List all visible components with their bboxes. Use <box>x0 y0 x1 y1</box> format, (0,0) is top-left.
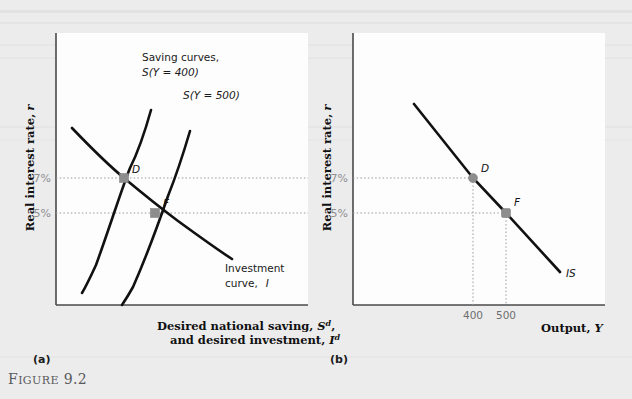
panel-a: D F 7% 5% Saving curves, S(Y = 400) S(Y … <box>23 33 341 366</box>
figure-caption-word-rest: IGURE <box>18 374 59 387</box>
panel-b-point-F-label: F <box>514 196 521 208</box>
panel-b-x-axis-title-symbol: Y <box>594 321 604 335</box>
saving-curve-500-label: S(Y = 500) <box>183 89 240 101</box>
panel-a-x-axis-title-line1: Desired national saving,Sd, <box>157 318 335 333</box>
panel-b-point-D-marker <box>469 174 478 183</box>
panel-b: D F IS 7% 5% 400 500 Real interest rate,… <box>320 33 605 366</box>
figure-caption-number: 9.2 <box>64 371 87 387</box>
investment-curve-label-word: curve, <box>225 277 258 289</box>
figure-caption-word: F <box>8 371 18 387</box>
panel-b-point-D-label: D <box>481 162 489 174</box>
panel-a-x-title-sup2: d <box>335 332 341 342</box>
panel-a-x-title-text1: Desired national saving, <box>157 319 313 333</box>
panel-a-x-axis-title-line2: and desired investment,Id <box>170 332 341 347</box>
investment-curve-symbol: I <box>266 277 269 289</box>
panel-a-point-F-marker <box>151 209 160 218</box>
panel-b-y-axis-title-symbol: r <box>320 104 334 111</box>
panel-b-letter: (b) <box>330 353 348 366</box>
panel-b-xtick-500: 500 <box>496 309 516 321</box>
panel-b-xtick-400: 400 <box>463 309 483 321</box>
panel-a-point-F-label: F <box>163 197 170 209</box>
panel-a-x-title-sym1: S <box>317 319 325 333</box>
panel-b-point-F-marker <box>502 209 511 218</box>
saving-curve-500 <box>122 131 190 305</box>
panel-a-point-D-marker <box>120 174 129 183</box>
panel-a-y-axis-title-text: Real interest rate, <box>23 114 37 231</box>
investment-curve-label-line2: curve, I <box>225 272 269 291</box>
saving-curve-400 <box>82 110 151 293</box>
is-curve <box>414 104 560 272</box>
panel-a-point-D-label: D <box>132 163 140 175</box>
panel-b-y-axis-title: Real interest rate,r <box>320 104 334 231</box>
figure-page: D F 7% 5% Saving curves, S(Y = 400) S(Y … <box>0 0 632 399</box>
saving-curves-label-line1: Saving curves, <box>142 51 219 63</box>
panel-a-x-title-tail1: , <box>331 319 335 333</box>
panel-a-x-title-text2: and desired investment, <box>170 333 325 347</box>
panel-a-y-axis-title-symbol: r <box>23 104 37 111</box>
panel-a-letter: (a) <box>33 353 50 366</box>
panel-b-x-axis-title-text: Output, <box>541 321 590 335</box>
investment-curve-label-line1: Investment <box>225 262 284 274</box>
panel-b-y-axis-title-text: Real interest rate, <box>320 114 334 231</box>
panel-b-x-axis-title: Output,Y <box>541 321 604 335</box>
saving-curves-label-line2: S(Y = 400) <box>142 66 199 78</box>
figure-caption: FIGURE 9.2 <box>8 371 87 387</box>
is-curve-label: IS <box>566 267 576 279</box>
panel-a-y-axis-title: Real interest rate,r <box>23 104 37 231</box>
figure-svg: D F 7% 5% Saving curves, S(Y = 400) S(Y … <box>0 0 632 399</box>
